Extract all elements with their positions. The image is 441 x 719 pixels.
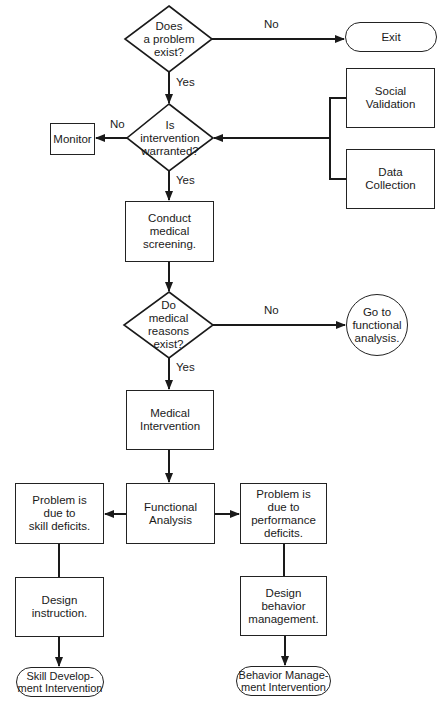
connector-go-to-functional-analysis: Go to functional analysis.	[346, 294, 408, 356]
box-skill-deficits: Problem is due to skill deficits.	[15, 483, 104, 544]
terminal-exit: Exit	[345, 22, 437, 52]
box-design-instruction: Design instruction.	[15, 577, 104, 637]
box-performance-deficits: Problem is due to performance deficits.	[240, 483, 327, 544]
edge-label-no-medical: No	[264, 304, 279, 316]
box-social-validation: Social Validation	[346, 68, 435, 128]
decision-problem-exist: Does a problem exist?	[125, 12, 213, 66]
terminal-skill-development-intervention: Skill Develop- ment Intervention	[16, 667, 104, 697]
terminal-behavior-management-intervention: Behavior Manage- ment Intervention	[236, 666, 331, 696]
edge-label-no-monitor: No	[110, 118, 125, 130]
edge-label-yes-problem: Yes	[176, 76, 195, 88]
box-design-behavior-management: Design behavior management.	[240, 576, 327, 636]
edge-label-yes-medical: Yes	[176, 361, 195, 373]
edge-label-yes-intervention: Yes	[176, 174, 195, 186]
box-medical-intervention: Medical Intervention	[126, 390, 214, 450]
box-monitor: Monitor	[50, 123, 95, 155]
box-data-collection: Data Collection	[346, 149, 435, 209]
box-functional-analysis: Functional Analysis	[126, 483, 215, 544]
edge-label-no-exit: No	[264, 18, 279, 30]
decision-intervention-warranted: Is intervention warranted?	[127, 112, 213, 164]
decision-medical-reasons: Do medical reasons exist?	[124, 296, 213, 354]
box-conduct-medical-screening: Conduct medical screening.	[125, 201, 214, 262]
